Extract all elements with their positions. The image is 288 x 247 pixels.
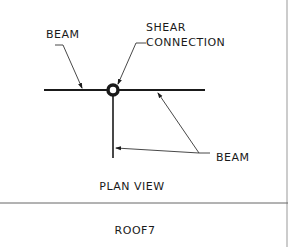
detail-drawing: BEAM SHEAR CONNECTION BEAM PLAN VIEW ROO… xyxy=(0,0,288,247)
leader-shear-connection xyxy=(118,43,146,84)
view-title: PLAN VIEW xyxy=(99,180,164,193)
label-shear: SHEAR xyxy=(146,21,186,34)
leader-beam-top-left xyxy=(55,45,82,88)
drawing-svg: BEAM SHEAR CONNECTION BEAM PLAN VIEW ROO… xyxy=(0,0,288,247)
footer-label: ROOF7 xyxy=(115,224,156,237)
shear-connection-symbol xyxy=(108,85,118,95)
label-beam-top-left: BEAM xyxy=(46,28,80,41)
label-connection: CONNECTION xyxy=(146,36,225,49)
leader-beam-right-to-vertical xyxy=(116,148,199,153)
leader-beam-right-to-horizontal xyxy=(158,93,210,153)
label-beam-right: BEAM xyxy=(216,151,250,164)
